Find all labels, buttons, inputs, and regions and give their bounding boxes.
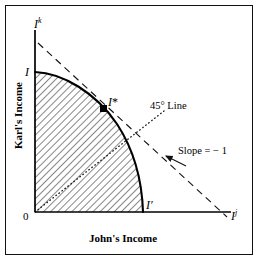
- figure-container: Ik Ij I I′ I* 0 45° Line Slope = − 1 Kar…: [0, 0, 262, 265]
- y-intercept-label: I: [25, 66, 29, 78]
- slope-label: Slope = − 1: [178, 146, 227, 157]
- plot-svg: [0, 0, 262, 265]
- x-intercept-label: I′: [146, 199, 153, 211]
- optimum-point-marker: [100, 105, 107, 112]
- slope-annotation-arrow: [166, 156, 186, 166]
- x-axis-symbol: Ij: [231, 209, 237, 222]
- y-axis-title: Karl's Income: [13, 71, 24, 161]
- optimum-point-label: I*: [108, 96, 118, 108]
- y-axis-symbol: Ik: [34, 17, 42, 30]
- forty-five-line-label: 45° Line: [150, 101, 187, 112]
- x-axis-title: John's Income: [58, 233, 188, 244]
- origin-label: 0: [23, 211, 29, 222]
